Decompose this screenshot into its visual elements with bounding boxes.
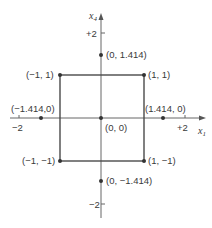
point-label: (−1, 1)	[26, 69, 54, 80]
point-dot	[142, 159, 146, 163]
point-dot	[58, 73, 62, 77]
point-dot	[99, 116, 103, 120]
point-label: (−1, −1)	[22, 155, 55, 166]
point-dot	[142, 73, 146, 77]
design-space-diagram: x4 x1 +2 −2 −2 +2 (0, 1.414) (−1, 1) (1,…	[0, 0, 212, 228]
point-label: (1.414, 0)	[145, 103, 186, 114]
point-label: (0, 1.414)	[106, 49, 147, 60]
x1-axis-arrow-icon	[199, 116, 206, 121]
point-dot	[161, 116, 165, 120]
point-label: (0, 0)	[105, 122, 127, 133]
x1-axis-label: x1	[197, 125, 206, 138]
x4-axis-arrow-icon	[99, 13, 104, 20]
point-dot	[39, 116, 43, 120]
x-tick-label-plus2: +2	[177, 122, 188, 133]
point-label: (0, −1.414)	[106, 175, 152, 186]
point-label: (1, −1)	[148, 155, 176, 166]
point-dot	[99, 179, 103, 183]
x4-axis-label: x4	[88, 10, 97, 23]
y-tick-label-minus2: −2	[89, 199, 100, 210]
point-label: (1, 1)	[148, 69, 170, 80]
point-label: (−1.414,0)	[11, 103, 55, 114]
point-dot	[99, 53, 103, 57]
point-dot	[58, 159, 62, 163]
y-tick-label-plus2: +2	[86, 28, 97, 39]
x-tick-label-minus2: −2	[12, 122, 23, 133]
